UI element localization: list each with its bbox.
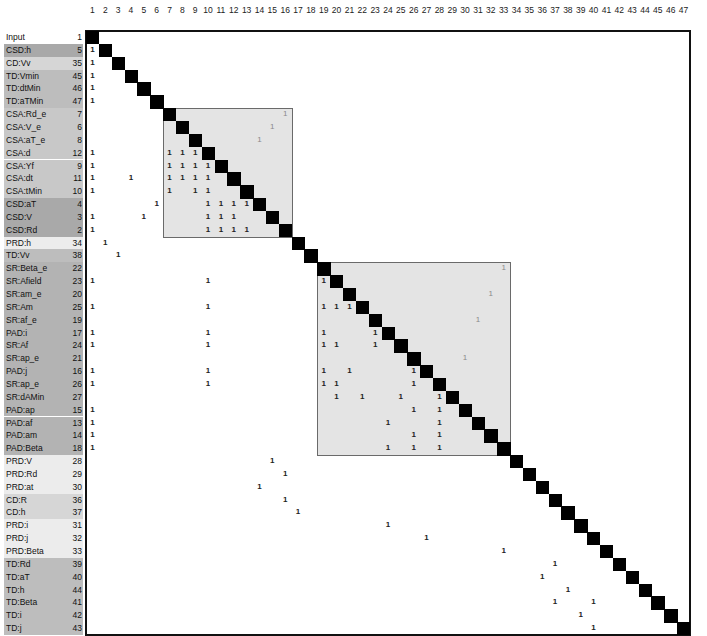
- diagonal-cell: [587, 532, 600, 545]
- row-label: PAD:i17: [4, 327, 83, 340]
- column-header: 22: [356, 5, 369, 15]
- dependency-mark: 1: [189, 160, 202, 173]
- row-index: 38: [73, 249, 82, 262]
- dependency-mark: 1: [343, 365, 356, 378]
- dependency-mark: 1: [202, 172, 215, 185]
- dependency-mark: 1: [86, 44, 99, 57]
- row-index: 21: [73, 352, 82, 365]
- dependency-mark: 1: [227, 211, 240, 224]
- diagonal-cell: [433, 378, 446, 391]
- row-index: 15: [73, 404, 82, 417]
- row-index: 13: [73, 417, 82, 430]
- row-index: 29: [73, 468, 82, 481]
- row-name: PAD:Beta: [6, 442, 43, 455]
- row-index: 3: [77, 211, 82, 224]
- column-header: 4: [125, 5, 138, 15]
- column-header: 35: [523, 5, 536, 15]
- row-label: SR:Afield23: [4, 275, 83, 288]
- column-header: 15: [266, 5, 279, 15]
- row-index: 45: [73, 70, 82, 83]
- dependency-mark: 1: [176, 172, 189, 185]
- row-index: 10: [73, 185, 82, 198]
- dependency-mark: 1: [86, 147, 99, 160]
- row-label: PRD:Beta33: [4, 545, 83, 558]
- dependency-mark: 1: [382, 442, 395, 455]
- diagonal-cell: [240, 185, 253, 198]
- row-name: CD:R: [6, 494, 27, 507]
- dependency-mark: 1: [202, 185, 215, 198]
- dependency-mark: 1: [189, 172, 202, 185]
- row-index: 14: [73, 429, 82, 442]
- column-header: 6: [150, 5, 163, 15]
- row-name: SR:Af: [6, 339, 28, 352]
- diagonal-cell: [446, 391, 459, 404]
- row-index: 36: [73, 494, 82, 507]
- row-name: TD:aTMin: [6, 95, 43, 108]
- row-label: PRD:V28: [4, 455, 83, 468]
- diagonal-cell: [561, 506, 574, 519]
- diagonal-cell: [407, 352, 420, 365]
- row-name: TD:j: [6, 622, 22, 635]
- row-name: PRD:V: [6, 455, 32, 468]
- row-index: 31: [73, 519, 82, 532]
- diagonal-cell: [99, 44, 112, 57]
- row-label: CSA:aT_e8: [4, 134, 83, 147]
- row-name: SR:Afield: [6, 275, 41, 288]
- row-name: PAD:i: [6, 327, 27, 340]
- row-name: PAD:j: [6, 365, 27, 378]
- dependency-mark: 1: [176, 160, 189, 173]
- dependency-mark: 1: [279, 108, 292, 121]
- row-label: SR:ap_e26: [4, 378, 83, 391]
- row-label: CD:h37: [4, 506, 83, 519]
- row-name: PRD:i: [6, 519, 28, 532]
- dependency-mark: 1: [112, 249, 125, 262]
- column-header: 12: [227, 5, 240, 15]
- row-label: PAD:ap15: [4, 404, 83, 417]
- diagonal-cell: [176, 121, 189, 134]
- row-index: 5: [77, 44, 82, 57]
- column-header: 37: [549, 5, 562, 15]
- column-header: 32: [484, 5, 497, 15]
- dependency-mark: 1: [86, 95, 99, 108]
- diagonal-cell: [112, 57, 125, 70]
- row-index: 23: [73, 275, 82, 288]
- column-header: 25: [394, 5, 407, 15]
- dependency-mark: 1: [150, 198, 163, 211]
- dependency-mark: 1: [86, 82, 99, 95]
- dependency-mark: 1: [266, 455, 279, 468]
- dependency-mark: 1: [86, 404, 99, 417]
- column-header: 16: [279, 5, 292, 15]
- row-name: CSA:Rd_e: [6, 108, 46, 121]
- dependency-mark: 1: [484, 288, 497, 301]
- dependency-mark: 1: [86, 172, 99, 185]
- dependency-mark: 1: [202, 365, 215, 378]
- diagonal-cell: [677, 622, 690, 635]
- row-index: 43: [73, 622, 82, 635]
- row-name: PRD:j: [6, 532, 28, 545]
- row-label: PRD:at30: [4, 481, 83, 494]
- row-name: TD:Vv: [6, 249, 30, 262]
- diagonal-cell: [356, 301, 369, 314]
- row-label: SR:Am25: [4, 301, 83, 314]
- diagonal-cell: [202, 147, 215, 160]
- dependency-mark: 1: [163, 185, 176, 198]
- diagonal-cell: [369, 314, 382, 327]
- row-name: PRD:Rd: [6, 468, 37, 481]
- column-header: 31: [472, 5, 485, 15]
- column-header: 30: [459, 5, 472, 15]
- row-name: TD:h: [6, 584, 24, 597]
- row-index: 27: [73, 391, 82, 404]
- dependency-mark: 1: [420, 532, 433, 545]
- column-header: 17: [292, 5, 305, 15]
- diagonal-cell: [125, 70, 138, 83]
- dependency-mark: 1: [189, 185, 202, 198]
- row-label: CD:Vv35: [4, 57, 83, 70]
- diagonal-cell: [664, 609, 677, 622]
- row-index: 33: [73, 545, 82, 558]
- diagonal-cell: [484, 429, 497, 442]
- dependency-mark: 1: [356, 391, 369, 404]
- dependency-mark: 1: [317, 378, 330, 391]
- row-index: 32: [73, 532, 82, 545]
- diagonal-cell: [304, 249, 317, 262]
- row-index: 40: [73, 571, 82, 584]
